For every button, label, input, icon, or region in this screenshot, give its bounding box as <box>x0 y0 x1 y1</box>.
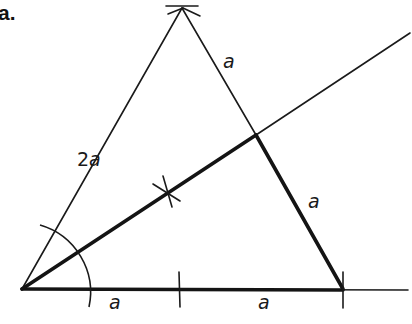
label-right-a: a <box>308 190 320 212</box>
bisector-segment <box>22 135 256 289</box>
base-tick-middle <box>179 272 180 307</box>
geometry-diagram: a. a 2a a a a <box>0 0 412 324</box>
label-2a: 2a <box>77 148 101 170</box>
hypotenuse-line <box>22 8 182 289</box>
right-side-segment <box>256 135 343 289</box>
label-upper-a: a <box>223 50 235 72</box>
part-label: a. <box>0 1 16 24</box>
label-base-right-a: a <box>258 291 270 313</box>
base-segment <box>22 289 343 290</box>
label-base-left-a: a <box>109 291 121 313</box>
bisector-ray <box>256 33 410 135</box>
upper-side-line <box>182 8 256 135</box>
angle-arc <box>40 225 91 307</box>
